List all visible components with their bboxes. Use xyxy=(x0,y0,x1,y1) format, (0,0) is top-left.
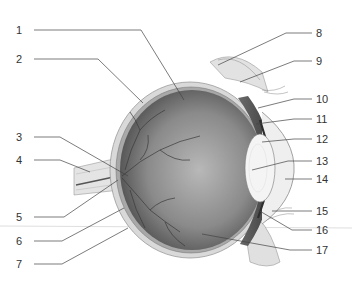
label-10: 10 xyxy=(316,94,328,105)
eye-diagram: 1 2 3 4 5 6 7 8 9 10 11 12 13 14 15 16 1… xyxy=(0,0,352,296)
label-4: 4 xyxy=(8,155,22,166)
label-15: 15 xyxy=(316,206,328,217)
label-9: 9 xyxy=(316,56,322,67)
label-1: 1 xyxy=(8,25,22,36)
label-12: 12 xyxy=(316,134,328,145)
label-2: 2 xyxy=(8,54,22,65)
leader-line-2 xyxy=(34,59,143,103)
label-7: 7 xyxy=(8,259,22,270)
label-17: 17 xyxy=(316,245,328,256)
leader-line-10 xyxy=(258,99,312,108)
label-5: 5 xyxy=(8,212,22,223)
eye-illustration xyxy=(0,0,352,296)
vitreous-body xyxy=(120,90,264,250)
leader-line-6 xyxy=(34,208,124,241)
label-8: 8 xyxy=(316,28,322,39)
leader-line-7 xyxy=(34,228,128,264)
label-13: 13 xyxy=(316,156,328,167)
label-3: 3 xyxy=(8,132,22,143)
label-16: 16 xyxy=(316,225,328,236)
label-6: 6 xyxy=(8,236,22,247)
label-14: 14 xyxy=(316,174,328,185)
label-11: 11 xyxy=(316,114,327,125)
upper-eyelid xyxy=(210,57,288,94)
